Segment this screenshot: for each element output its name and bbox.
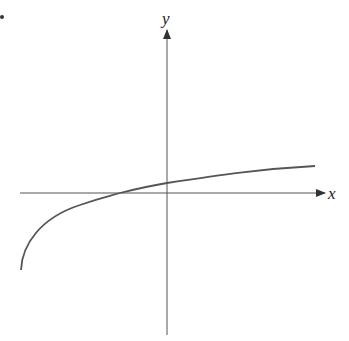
y-axis-label: y (160, 9, 170, 28)
dot-marker (0, 15, 4, 19)
function-curve (21, 166, 315, 270)
graph-canvas: x y (0, 0, 349, 341)
x-axis-label: x (327, 184, 336, 203)
